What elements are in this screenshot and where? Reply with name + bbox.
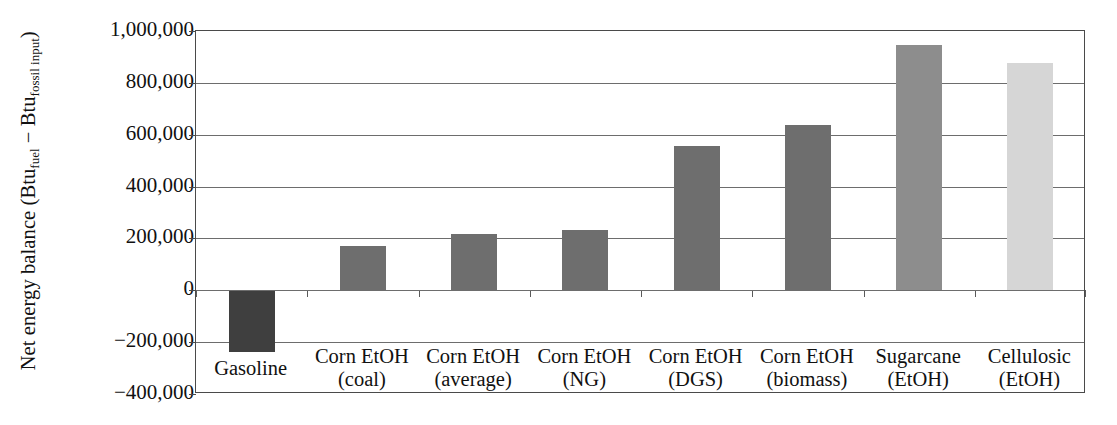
category-label-line1: Corn EtOH (537, 345, 631, 367)
category-label-line2: (EtOH) (959, 368, 1099, 391)
y-axis-tick-mark (189, 83, 196, 84)
x-axis-tick-mark (196, 290, 197, 297)
y-axis-tick-mark (189, 187, 196, 188)
bar (562, 230, 608, 290)
gridline (196, 238, 1084, 239)
y-axis-tick-label: 0 (42, 278, 194, 299)
bar (340, 246, 386, 290)
x-axis-tick-mark (864, 290, 865, 297)
plot-area (195, 30, 1085, 393)
chart-figure: Net energy balance (Btufuel − Btufossil … (0, 0, 1117, 425)
y-axis-tick-label: 400,000 (42, 175, 194, 196)
y-axis-tick-labels: 1,000,000800,000600,000400,000200,0000−2… (24, 0, 194, 425)
category-label-line1: Corn EtOH (315, 345, 409, 367)
gridline (196, 83, 1084, 84)
x-axis-tick-mark (641, 290, 642, 297)
y-axis-tick-label: −200,000 (42, 330, 194, 351)
category-label-line1: Sugarcane (875, 345, 960, 367)
gridline (196, 187, 1084, 188)
x-axis-tick-mark (419, 290, 420, 297)
category-label-line1: Corn EtOH (649, 345, 743, 367)
bar (674, 146, 720, 291)
gridline (196, 342, 1084, 343)
x-axis-tick-mark (530, 290, 531, 297)
x-axis-tick-mark (307, 290, 308, 297)
category-label-line1: Corn EtOH (426, 345, 520, 367)
y-axis-tick-mark (189, 135, 196, 136)
y-axis-tick-mark (189, 31, 196, 32)
x-axis-tick-mark (975, 290, 976, 297)
x-axis-tick-mark (1085, 290, 1086, 297)
category-label-line1: Cellulosic (988, 345, 1071, 367)
category-label-line1: Gasoline (214, 357, 287, 379)
x-axis-category-labels: GasolineCorn EtOH(coal)Corn EtOH(average… (195, 345, 1085, 425)
y-axis-tick-label: 800,000 (42, 71, 194, 92)
bar (785, 125, 831, 290)
bar (1007, 63, 1053, 290)
y-axis-tick-label: −400,000 (42, 382, 194, 403)
y-axis-tick-mark (189, 290, 196, 291)
y-axis-tick-label: 200,000 (42, 226, 194, 247)
bar (896, 45, 942, 290)
category-label-line1: Corn EtOH (760, 345, 854, 367)
y-axis-tick-mark (189, 238, 196, 239)
y-axis-tick-label: 1,000,000 (42, 19, 194, 40)
zero-baseline (196, 290, 1084, 291)
y-axis-tick-mark (189, 342, 196, 343)
y-axis-tick-label: 600,000 (42, 123, 194, 144)
bar (451, 234, 497, 291)
x-axis-category-label: Cellulosic(EtOH) (959, 345, 1099, 391)
gridline (196, 135, 1084, 136)
bar (229, 290, 275, 352)
x-axis-tick-mark (752, 290, 753, 297)
